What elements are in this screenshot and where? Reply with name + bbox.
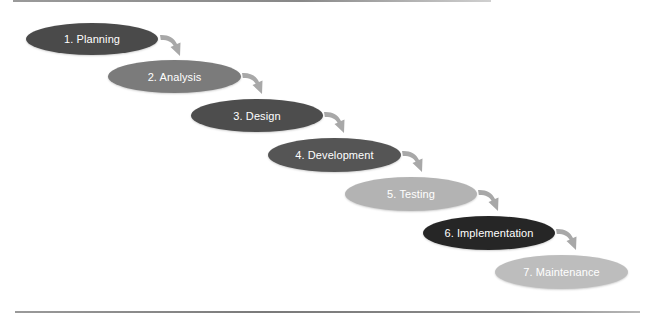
stage-analysis: 2. Analysis	[108, 60, 241, 93]
stage-label: 2. Analysis	[148, 71, 202, 83]
stage-label: 3. Design	[233, 110, 280, 122]
curved-arrow-icon	[241, 71, 267, 95]
stage-testing: 5. Testing	[345, 177, 477, 211]
bottom-divider	[15, 311, 640, 313]
curved-arrow-icon	[477, 188, 503, 212]
stage-design: 3. Design	[191, 99, 323, 132]
stage-label: 6. Implementation	[444, 227, 533, 239]
stage-development: 4. Development	[268, 138, 401, 172]
stage-label: 5. Testing	[387, 188, 435, 200]
curved-arrow-icon	[401, 149, 427, 173]
curved-arrow-icon	[555, 227, 581, 251]
waterfall-diagram: 1. Planning 2. Analysis 3. Design 4. Dev…	[0, 0, 651, 315]
stage-planning: 1. Planning	[26, 23, 158, 55]
stage-maintenance: 7. Maintenance	[495, 255, 628, 289]
stage-label: 1. Planning	[64, 33, 120, 45]
stage-label: 7. Maintenance	[523, 266, 600, 278]
stage-implementation: 6. Implementation	[423, 216, 555, 250]
curved-arrow-icon	[159, 33, 185, 57]
curved-arrow-icon	[323, 110, 349, 134]
stage-label: 4. Development	[295, 149, 373, 161]
